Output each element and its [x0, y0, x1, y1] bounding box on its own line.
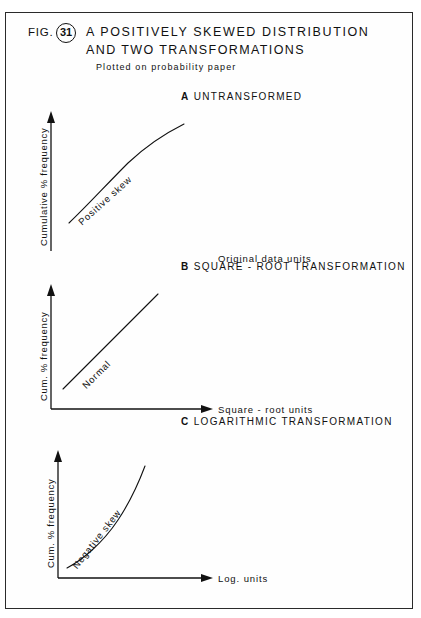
panel-a-y-axis-arrow-icon — [47, 111, 55, 123]
figure-title-line-2: AND TWO TRANSFORMATIONS — [86, 43, 305, 57]
figure-subtitle: Plotted on probability paper — [96, 62, 236, 72]
panel-b-x-axis-label: Square - root units — [218, 404, 313, 415]
figure-label: FIG. — [28, 26, 54, 38]
panel-a-y-axis-label: Cumulative % frequency — [38, 128, 49, 246]
panel-c-x-axis-arrow-icon — [201, 574, 213, 582]
panel-a-plot — [6, 91, 414, 251]
panel-b-x-axis-arrow-icon — [201, 405, 213, 413]
panel-c-y-axis-label: Cum. % frequency — [45, 479, 56, 568]
figure-number-badge: 31 — [56, 23, 76, 43]
panel-a-untransformed: AUNTRANSFORMED Cumulative % frequency Or… — [6, 91, 414, 251]
panel-b-plot — [6, 261, 414, 416]
figure-title-line-1: A POSITIVELY SKEWED DISTRIBUTION — [86, 25, 369, 39]
panel-c-x-axis-label: Log. units — [218, 573, 268, 584]
panel-b-square-root: BSQUARE - ROOT TRANSFORMATION Cum. % fre… — [6, 261, 414, 416]
figure-title-block: FIG. 31 A POSITIVELY SKEWED DISTRIBUTION… — [6, 13, 412, 85]
panel-b-y-axis-label: Cum. % frequency — [38, 312, 49, 401]
panel-c-logarithmic: CLOGARITHMIC TRANSFORMATION Cum. % frequ… — [6, 416, 414, 591]
panel-b-curve — [63, 294, 158, 389]
figure-frame: FIG. 31 A POSITIVELY SKEWED DISTRIBUTION… — [5, 12, 413, 609]
panel-b-y-axis-arrow-icon — [47, 284, 55, 296]
panel-c-plot — [6, 416, 414, 591]
panel-c-y-axis-arrow-icon — [54, 450, 62, 462]
